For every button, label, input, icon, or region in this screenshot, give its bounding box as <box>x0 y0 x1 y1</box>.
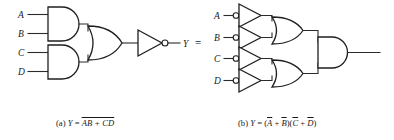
caption-b-var: Y <box>250 118 255 128</box>
inverter-c-bubble-icon <box>233 56 239 62</box>
wire-a-and-ab-to-or <box>79 24 88 31</box>
input-label-a-D: D <box>17 67 25 77</box>
caption-b-prefix: (b) <box>238 118 248 128</box>
wire-b-notA-to-or-top <box>261 16 272 22</box>
input-label-b-A: A <box>213 11 220 21</box>
equals-sign: = <box>195 36 201 48</box>
output-label-a: Y <box>183 39 190 49</box>
logic-circuit-figure: A B C D Y <box>0 0 394 140</box>
caption-b: (b) Y = (A + B)(C + D) <box>238 118 316 128</box>
caption-b-term1: A <box>267 118 272 128</box>
and-gate-out-b <box>318 37 347 68</box>
wire-b-notC-to-or-bottom <box>261 59 272 65</box>
wire-b-or-bottom-to-and <box>303 63 318 74</box>
inverter-d-bubble-icon <box>233 78 239 84</box>
inverter-bubble-icon <box>162 40 168 46</box>
caption-a-var: Y <box>68 118 73 128</box>
caption-a-eq: = <box>75 118 80 128</box>
input-label-a-B: B <box>18 29 24 39</box>
wire-b-or-top-to-and <box>303 31 318 43</box>
input-label-a-C: C <box>18 48 25 58</box>
input-label-a-A: A <box>17 10 24 20</box>
inverter-c-b <box>239 47 261 70</box>
input-label-b-B: B <box>214 33 220 43</box>
panel-b: A B C D <box>213 4 380 92</box>
and-gate-ab <box>48 7 79 41</box>
or-gate-a <box>88 26 122 60</box>
caption-a: (a) Y = AB + CD <box>56 118 114 128</box>
caption-b-eq: = <box>257 118 262 128</box>
wire-b-notD-to-or-bottom <box>261 76 272 81</box>
inverter-a-b <box>239 4 261 27</box>
panel-a: A B C D Y <box>17 7 190 79</box>
inverter-a-bubble-icon <box>233 13 239 19</box>
caption-a-expr: AB + CD <box>82 118 115 128</box>
inverter-d-b <box>239 69 261 92</box>
wire-a-and-cd-to-or <box>79 55 88 62</box>
inverter-b-bubble-icon <box>233 35 239 41</box>
caption-b-term3: C <box>292 118 298 128</box>
input-label-b-C: C <box>214 54 221 64</box>
caption-b-close: ) <box>314 118 317 128</box>
caption-b-plus1: + <box>274 118 279 128</box>
and-gate-cd <box>48 45 79 79</box>
caption-a-prefix: (a) <box>56 118 66 128</box>
inverter-b-b <box>239 26 261 49</box>
caption-b-plus2: + <box>300 118 305 128</box>
or-gate-top-b <box>272 17 303 44</box>
wire-b-notB-to-or-top <box>261 33 272 38</box>
input-label-b-D: D <box>213 76 221 86</box>
or-gate-bottom-b <box>272 60 303 87</box>
inverter-a <box>138 30 162 56</box>
